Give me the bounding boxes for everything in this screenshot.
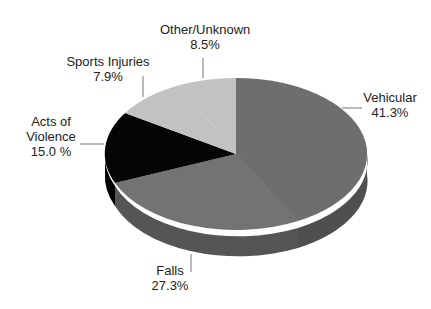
label-sports-injuries: Sports Injuries 7.9% — [63, 54, 153, 84]
label-percent: 15.0 % — [20, 144, 82, 159]
label-name: Other/Unknown — [160, 22, 250, 37]
label-other-unknown: Other/Unknown 8.5% — [160, 22, 250, 52]
label-name-line1: Acts of — [20, 114, 82, 129]
label-falls: Falls 27.3% — [145, 263, 195, 293]
label-acts-of-violence: Acts of Violence 15.0 % — [20, 114, 82, 159]
label-percent: 41.3% — [355, 105, 425, 120]
label-percent: 8.5% — [160, 37, 250, 52]
label-name: Vehicular — [355, 90, 425, 105]
label-percent: 7.9% — [63, 69, 153, 84]
label-percent: 27.3% — [145, 278, 195, 293]
label-name: Sports Injuries — [63, 54, 153, 69]
label-name-line2: Violence — [20, 129, 82, 144]
pie-top — [105, 78, 367, 230]
label-vehicular: Vehicular 41.3% — [355, 90, 425, 120]
label-name: Falls — [145, 263, 195, 278]
